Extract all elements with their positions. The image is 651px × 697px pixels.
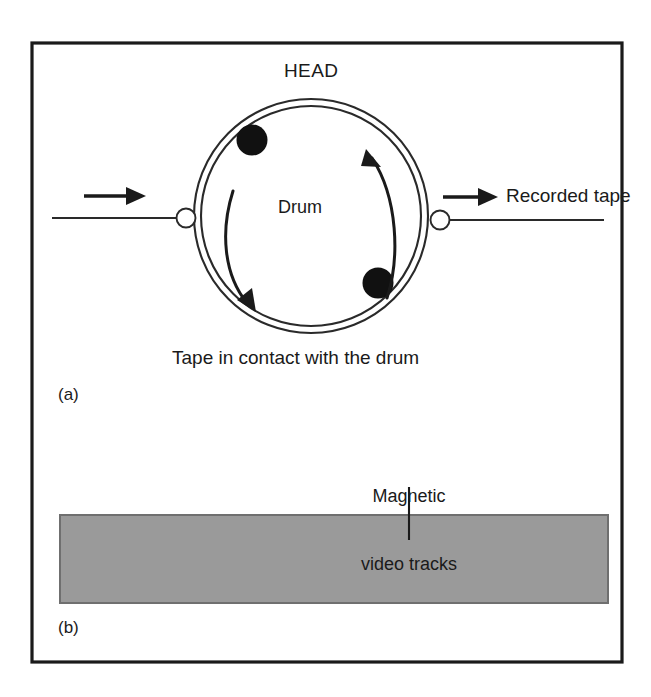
tape-direction-arrow-left: [84, 187, 146, 205]
part-b-caption: (b): [58, 618, 79, 638]
drum-label: Drum: [278, 197, 322, 218]
magnetic-head-upper-left: [237, 125, 268, 156]
figure-root: HEAD Drum Recorded tape Tape in contact …: [0, 0, 651, 697]
tape-direction-arrow-right: [443, 188, 498, 206]
magnetic-tape-band: [60, 515, 608, 603]
magnetic-video-tracks-label: Magnetic video tracks: [349, 440, 469, 620]
guide-roller-left: [177, 209, 196, 228]
rotation-arrow-lower: [226, 191, 256, 312]
tape-contact-label: Tape in contact with the drum: [172, 347, 419, 369]
part-a-caption: (a): [58, 385, 79, 405]
guide-roller-right: [431, 211, 450, 230]
tracks-label-line-2: video tracks: [349, 553, 469, 576]
recorded-tape-label: Recorded tape: [506, 185, 631, 207]
tracks-label-line-1: Magnetic: [349, 485, 469, 508]
head-label: HEAD: [284, 60, 338, 82]
